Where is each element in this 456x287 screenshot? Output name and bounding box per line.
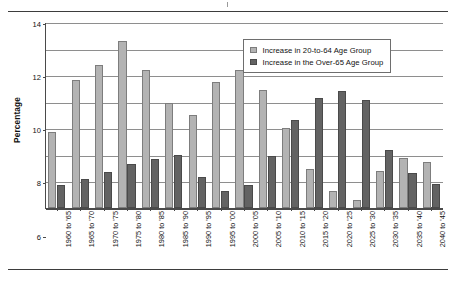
bar-dark	[221, 191, 229, 208]
y-tick-label-6: 6	[37, 232, 41, 241]
bar-light	[189, 115, 197, 208]
bar-light	[165, 103, 173, 208]
x-tick-mark	[127, 207, 128, 211]
bar-dark	[151, 159, 159, 208]
x-tick-mark	[291, 207, 292, 211]
bar-light	[376, 171, 384, 208]
x-tick-label: 2015 to '20	[320, 211, 332, 273]
x-tick-label: 1990 to '95	[203, 211, 215, 273]
legend-swatch-light-icon	[250, 47, 257, 54]
x-tick-label: 2010 to '15	[297, 211, 309, 273]
x-tick-mark	[384, 207, 385, 211]
x-tick-label: 1970 to '75	[110, 211, 122, 273]
bar-group	[421, 23, 444, 208]
x-tick-label: 2035 to '40	[414, 211, 426, 273]
bar-dark	[198, 177, 206, 208]
bar-chart-figure: Percentage 02468101214 Increase in 20-to…	[0, 14, 456, 269]
x-tick-label: 1995 to '00	[227, 211, 239, 273]
bar-light	[259, 90, 267, 208]
bar-group	[116, 23, 139, 208]
bar-dark	[432, 184, 440, 208]
bar-light	[212, 82, 220, 208]
x-tick-mark	[361, 207, 362, 211]
x-tick-mark	[80, 207, 81, 211]
x-tick-mark	[57, 207, 58, 211]
bar-dark	[408, 173, 416, 208]
bar-light	[48, 132, 56, 208]
legend-item-light: Increase in 20-to-64 Age Group	[250, 44, 383, 56]
bar-group	[397, 23, 420, 208]
x-axis-labels: 1960 to '651965 to '701970 to '751975 to…	[45, 211, 443, 273]
bar-dark	[315, 98, 323, 208]
x-tick-label: 2030 to '35	[390, 211, 402, 273]
bar-dark	[362, 100, 370, 208]
bar-light	[72, 80, 80, 208]
x-tick-label: 2005 to '10	[273, 211, 285, 273]
y-tick-label-14: 14	[33, 20, 41, 29]
bar-group	[163, 23, 186, 208]
x-tick-mark	[244, 207, 245, 211]
bar-light	[329, 191, 337, 208]
x-tick-mark	[338, 207, 339, 211]
x-tick-mark	[431, 207, 432, 211]
x-tick-mark	[221, 207, 222, 211]
bar-light	[306, 169, 314, 208]
legend-label-light: Increase in 20-to-64 Age Group	[263, 46, 372, 55]
bar-dark	[385, 150, 393, 208]
x-tick-mark	[150, 207, 151, 211]
y-tick-label-8: 8	[37, 179, 41, 188]
bar-dark	[57, 185, 65, 208]
x-tick-label: 1965 to '70	[86, 211, 98, 273]
bar-group	[186, 23, 209, 208]
x-tick-label: 2025 to '30	[367, 211, 379, 273]
bar-dark	[174, 155, 182, 208]
x-tick-mark	[314, 207, 315, 211]
bar-dark	[268, 156, 276, 208]
legend-item-dark: Increase in the Over-65 Age Group	[250, 56, 383, 68]
bar-dark	[127, 164, 135, 208]
x-tick-mark	[104, 207, 105, 211]
page-tick-mark	[227, 2, 228, 7]
legend-swatch-dark-icon	[250, 59, 257, 66]
bar-group	[140, 23, 163, 208]
x-tick-label: 1980 to '85	[156, 211, 168, 273]
bar-light	[282, 128, 290, 208]
bar-light	[142, 70, 150, 208]
bar-light	[423, 162, 431, 209]
bar-dark	[338, 91, 346, 208]
page-rule-top	[8, 11, 448, 12]
bar-dark	[104, 172, 112, 208]
x-tick-mark	[267, 207, 268, 211]
x-tick-label: 2020 to '25	[344, 211, 356, 273]
bar-light	[353, 200, 361, 208]
bar-light	[235, 70, 243, 208]
legend-label-dark: Increase in the Over-65 Age Group	[263, 58, 384, 67]
bar-dark	[244, 185, 252, 208]
y-axis-title: Percentage	[8, 72, 26, 168]
bar-light	[118, 41, 126, 208]
bar-dark	[291, 120, 299, 208]
y-tick-label-12: 12	[33, 73, 41, 82]
x-tick-label: 2040 to '45	[437, 211, 449, 273]
bar-group	[46, 23, 69, 208]
x-tick-label: 1985 to '90	[180, 211, 192, 273]
chart-legend: Increase in 20-to-64 Age Group Increase …	[243, 39, 391, 73]
bar-group	[69, 23, 92, 208]
bar-light	[95, 65, 103, 208]
x-tick-mark	[174, 207, 175, 211]
bar-light	[399, 158, 407, 208]
x-tick-label: 2000 to '05	[250, 211, 262, 273]
x-tick-mark	[408, 207, 409, 211]
x-tick-label: 1975 to '80	[133, 211, 145, 273]
y-tick-label-10: 10	[33, 126, 41, 135]
bar-dark	[81, 179, 89, 208]
x-tick-mark	[197, 207, 198, 211]
page-rule-bottom	[8, 269, 448, 270]
bar-group	[93, 23, 116, 208]
bar-group	[210, 23, 233, 208]
x-tick-label: 1960 to '65	[63, 211, 75, 273]
